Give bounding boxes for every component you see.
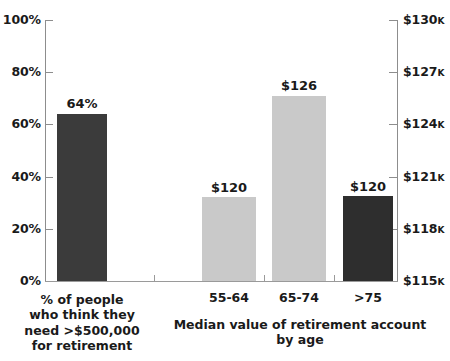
group-caption-line-1: % of people [22, 292, 142, 307]
x-axis-tick-group-separator [154, 275, 155, 281]
right-axis-label-130-unit: K [437, 16, 444, 26]
x-axis-baseline [45, 281, 398, 282]
bar-value-65-74: $126 [269, 79, 329, 92]
right-axis-tick-121 [389, 177, 397, 178]
right-axis-label-115-value: $115 [403, 273, 437, 288]
bar-value-retirement-need: 64% [52, 97, 112, 110]
right-axis-tick-130 [389, 20, 397, 21]
retirement-bar-chart: 100% 80% 60% 40% 20% 0% $130K $127K $124… [0, 0, 450, 361]
right-axis-label-121-unit: K [437, 173, 444, 183]
right-axis-label-121-value: $121 [403, 169, 437, 184]
right-axis-label-118: $118K [403, 223, 444, 236]
right-axis-line [397, 20, 398, 282]
group-caption-median-value: Median value of retirement account by ag… [170, 317, 430, 348]
right-axis-label-130-value: $130 [403, 12, 437, 27]
left-axis-tick-80 [45, 72, 53, 73]
bar-over-75 [343, 196, 393, 281]
left-axis-label-80: 80% [0, 66, 41, 79]
bar-value-55-64: $120 [199, 181, 259, 194]
left-axis-tick-100 [45, 20, 53, 21]
right-axis-label-118-unit: K [437, 225, 444, 235]
group-caption-line-3: need >$500,000 [22, 323, 142, 338]
group-caption-median-line-1: Median value of retirement account [170, 317, 430, 332]
left-axis-tick-20 [45, 229, 53, 230]
left-axis-tick-60 [45, 124, 53, 125]
bar-55-64 [202, 197, 256, 281]
right-axis-label-121: $121K [403, 171, 444, 184]
x-axis-tick-65-74 [334, 275, 335, 281]
left-axis-label-20: 20% [0, 223, 41, 236]
left-axis-label-40: 40% [0, 171, 41, 184]
group-caption-line-4: for retirement [22, 338, 142, 353]
group-caption-line-2: who think they [22, 307, 142, 322]
right-axis-label-124: $124K [403, 118, 444, 131]
right-axis-label-124-value: $124 [403, 116, 437, 131]
left-axis-tick-40 [45, 177, 53, 178]
category-label-over-75: >75 [338, 292, 398, 305]
right-axis-label-130: $130K [403, 14, 444, 27]
bar-retirement-need [57, 114, 107, 281]
bar-65-74 [272, 96, 326, 281]
bar-value-over-75: $120 [338, 180, 398, 193]
right-axis-label-115-unit: K [437, 277, 444, 287]
group-caption-median-line-2: by age [170, 332, 430, 347]
right-axis-tick-127 [389, 72, 397, 73]
right-axis-label-118-value: $118 [403, 221, 437, 236]
right-axis-label-127-unit: K [437, 68, 444, 78]
left-axis-label-100: 100% [0, 14, 41, 27]
x-axis-tick-55-64 [264, 275, 265, 281]
left-axis-label-60: 60% [0, 118, 41, 131]
left-axis-label-0: 0% [0, 275, 41, 288]
right-axis-label-127-value: $127 [403, 64, 437, 79]
group-caption-retirement-need: % of people who think they need >$500,00… [22, 292, 142, 353]
category-label-65-74: 65-74 [269, 292, 329, 305]
category-label-55-64: 55-64 [199, 292, 259, 305]
right-axis-tick-124 [389, 124, 397, 125]
left-axis-line [45, 20, 46, 282]
right-axis-label-124-unit: K [437, 120, 444, 130]
right-axis-label-115: $115K [403, 275, 444, 288]
right-axis-label-127: $127K [403, 66, 444, 79]
